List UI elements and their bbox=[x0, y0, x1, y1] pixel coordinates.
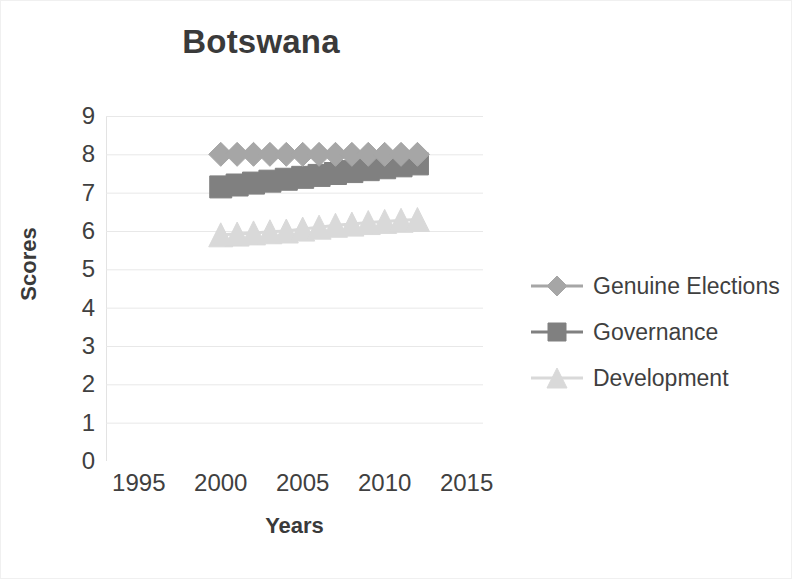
diamond-marker-icon bbox=[529, 274, 585, 298]
chart-plot-svg bbox=[106, 116, 483, 461]
y-tick-label: 2 bbox=[55, 372, 95, 396]
legend-label: Governance bbox=[593, 321, 718, 344]
x-axis-title: Years bbox=[106, 513, 483, 539]
y-axis-title: Scores bbox=[16, 204, 42, 324]
square-marker-icon bbox=[529, 320, 585, 344]
x-tick-label: 2010 bbox=[358, 471, 411, 495]
x-tick-label: 2005 bbox=[276, 471, 329, 495]
chart-container: Botswana Scores 0123456789 1995200020052… bbox=[0, 0, 792, 579]
legend-label: Genuine Elections bbox=[593, 275, 780, 298]
x-tick-label: 2015 bbox=[440, 471, 493, 495]
plot-area bbox=[106, 116, 483, 461]
y-tick-label: 1 bbox=[55, 411, 95, 435]
y-tick-label: 6 bbox=[55, 219, 95, 243]
y-tick-label: 5 bbox=[55, 257, 95, 281]
y-tick-label: 0 bbox=[55, 449, 95, 473]
x-axis-tick-labels: 19952000200520102015 bbox=[1, 471, 792, 505]
x-tick-label: 1995 bbox=[112, 471, 165, 495]
legend-label: Development bbox=[593, 367, 729, 390]
y-tick-label: 7 bbox=[55, 181, 95, 205]
legend-entry[interactable]: Genuine Elections bbox=[529, 263, 784, 309]
y-tick-label: 8 bbox=[55, 142, 95, 166]
legend-entry[interactable]: Development bbox=[529, 355, 784, 401]
chart-series bbox=[209, 208, 430, 247]
y-axis-tick-labels: 0123456789 bbox=[53, 116, 95, 461]
x-tick-label: 2000 bbox=[194, 471, 247, 495]
triangle-marker-icon bbox=[529, 366, 585, 390]
y-tick-label: 3 bbox=[55, 334, 95, 358]
legend-entry[interactable]: Governance bbox=[529, 309, 784, 355]
y-tick-label: 4 bbox=[55, 296, 95, 320]
chart-legend: Genuine ElectionsGovernanceDevelopment bbox=[529, 263, 784, 401]
chart-title: Botswana bbox=[1, 23, 521, 61]
y-tick-label: 9 bbox=[55, 104, 95, 128]
